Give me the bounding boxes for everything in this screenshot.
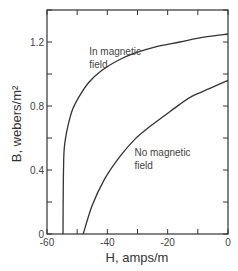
y-axis-title: B, webers/m² (9, 85, 24, 162)
curve-annotation: field (134, 160, 152, 171)
y-tick-label: 0.8 (30, 101, 44, 112)
plot-frame (47, 10, 228, 234)
curve-annotation: No magnetic (134, 147, 190, 158)
y-tick-label: 0.4 (30, 165, 44, 176)
curve-in-magnetic-field (63, 34, 228, 234)
y-tick-label: 0 (38, 229, 44, 240)
x-tick-label: -40 (100, 237, 115, 248)
x-axis-title: H, amps/m (106, 250, 169, 265)
plot-area: In magneticfieldNo magneticfield (63, 34, 228, 234)
bh-curve-chart: In magneticfieldNo magneticfield -60-40-… (0, 0, 238, 271)
x-tick-label: -20 (160, 237, 175, 248)
x-tick-label: 0 (225, 237, 231, 248)
curve-annotation: In magnetic (89, 46, 141, 57)
curve-annotation: field (89, 59, 107, 70)
y-tick-label: 1.2 (30, 37, 44, 48)
